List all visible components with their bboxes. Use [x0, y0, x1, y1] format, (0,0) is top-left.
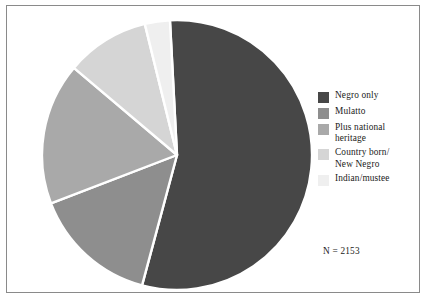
chart-legend: Negro only Mulatto Plus national heritag… [318, 90, 422, 189]
pie-chart [40, 18, 314, 292]
legend-label-negro-only: Negro only [335, 90, 379, 101]
chart-figure: Negro only Mulatto Plus national heritag… [0, 0, 427, 301]
legend-label-indian-mustee: Indian/mustee [335, 173, 390, 184]
legend-swatch-indian-mustee [318, 175, 329, 186]
legend-label-plus-national-heritage: Plus national heritage [335, 122, 385, 144]
legend-swatch-mulatto [318, 108, 329, 119]
legend-item-indian-mustee: Indian/mustee [318, 173, 422, 186]
legend-item-negro-only: Negro only [318, 90, 422, 103]
legend-swatch-country-born-new-negro [318, 149, 329, 160]
legend-label-mulatto: Mulatto [335, 106, 366, 117]
legend-item-plus-national-heritage: Plus national heritage [318, 122, 422, 144]
legend-swatch-plus-national-heritage [318, 124, 329, 135]
legend-item-country-born-new-negro: Country born/ New Negro [318, 147, 422, 169]
legend-swatch-negro-only [318, 92, 329, 103]
legend-item-mulatto: Mulatto [318, 106, 422, 119]
figure-frame: Negro only Mulatto Plus national heritag… [6, 5, 420, 293]
pie-chart-svg [40, 18, 314, 292]
sample-size-annotation: N = 2153 [323, 246, 360, 256]
pie-slice-group [42, 20, 312, 290]
legend-label-country-born-new-negro: Country born/ New Negro [335, 147, 389, 169]
